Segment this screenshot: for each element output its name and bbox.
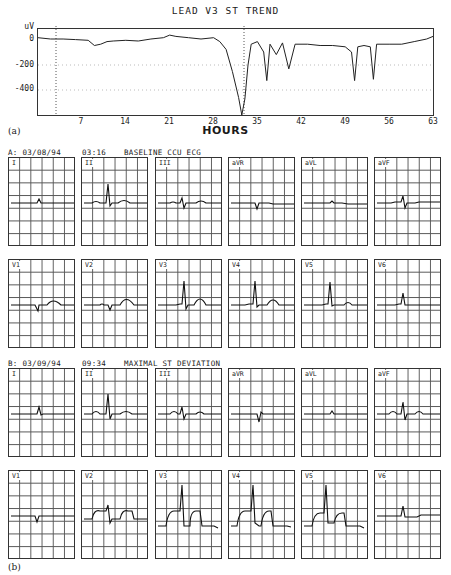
ecg-lead-box-b-v4: V4 [228, 470, 295, 559]
lead-label: V5 [304, 261, 314, 269]
ecg-lead-box-a-iii: III [155, 157, 222, 246]
lead-label: V2 [84, 261, 94, 269]
ecg-waveform [9, 260, 76, 349]
ecg-lead-box-a-v2: V2 [81, 259, 148, 348]
ecg-lead-box-a-i: I [8, 157, 75, 246]
lead-label: V6 [377, 472, 387, 480]
lead-label: aVF [377, 370, 391, 378]
ecg-lead-box-b-v2: V2 [81, 470, 148, 559]
lead-label: V5 [304, 472, 314, 480]
panel-label-a: (a) [8, 126, 20, 136]
ecg-waveform [156, 471, 223, 560]
ecg-waveform [82, 158, 149, 247]
ecg-lead-box-b-avr: aVR [228, 368, 295, 457]
ecg-lead-box-a-v5: V5 [301, 259, 368, 348]
lead-label: aVL [304, 370, 318, 378]
lead-label: aVR [231, 159, 245, 167]
ecg-waveform [156, 260, 223, 349]
ecg-waveform [9, 158, 76, 247]
ecg-waveform [229, 158, 296, 247]
ecg-waveform [82, 369, 149, 458]
lead-label: III [158, 370, 172, 378]
ecg-lead-box-b-ii: II [81, 368, 148, 457]
ecg-lead-box-a-v4: V4 [228, 259, 295, 348]
section-a-date: A: 03/08/94 [8, 148, 61, 157]
section-b-date: B: 03/09/94 [8, 359, 61, 368]
section-a-time: 03:16 [82, 148, 106, 157]
ecg-lead-box-a-avr: aVR [228, 157, 295, 246]
ecg-lead-box-b-v3: V3 [155, 470, 222, 559]
panel-label-b: (b) [8, 562, 21, 572]
ecg-waveform [375, 158, 442, 247]
ecg-waveform [9, 369, 76, 458]
ecg-lead-box-a-avf: aVF [374, 157, 441, 246]
lead-label: V3 [158, 472, 168, 480]
lead-label: V6 [377, 261, 387, 269]
ecg-waveform [9, 471, 76, 560]
x-axis-label: HOURS [0, 124, 451, 137]
ecg-waveform [302, 260, 369, 349]
lead-label: I [11, 159, 17, 167]
lead-label: aVF [377, 159, 391, 167]
lead-label: I [11, 370, 17, 378]
lead-label: V2 [84, 472, 94, 480]
lead-label: V4 [231, 261, 241, 269]
ecg-lead-box-b-iii: III [155, 368, 222, 457]
ecg-waveform [302, 369, 369, 458]
ecg-lead-box-a-v1: V1 [8, 259, 75, 348]
ecg-waveform [375, 369, 442, 458]
ecg-waveform [229, 369, 296, 458]
ecg-waveform [375, 260, 442, 349]
lead-label: V1 [11, 472, 21, 480]
section-a-description: BASELINE CCU ECG [124, 148, 201, 157]
ecg-waveform [229, 471, 296, 560]
ecg-waveform [302, 471, 369, 560]
lead-label: aVL [304, 159, 318, 167]
ecg-waveform [82, 260, 149, 349]
ecg-lead-box-b-i: I [8, 368, 75, 457]
ecg-waveform [302, 158, 369, 247]
section-b-time: 09:34 [82, 359, 106, 368]
ecg-lead-box-b-v6: V6 [374, 470, 441, 559]
lead-label: V1 [11, 261, 21, 269]
lead-label: V4 [231, 472, 241, 480]
ecg-lead-box-b-avf: aVF [374, 368, 441, 457]
lead-label: II [84, 370, 94, 378]
ecg-lead-box-a-ii: II [81, 157, 148, 246]
ecg-lead-box-b-v5: V5 [301, 470, 368, 559]
ecg-waveform [229, 260, 296, 349]
lead-label: III [158, 159, 172, 167]
ecg-lead-box-b-v1: V1 [8, 470, 75, 559]
ecg-lead-box-a-avl: aVL [301, 157, 368, 246]
ecg-waveform [156, 369, 223, 458]
ecg-lead-box-a-v6: V6 [374, 259, 441, 348]
lead-label: aVR [231, 370, 245, 378]
lead-label: V3 [158, 261, 168, 269]
ecg-waveform [82, 471, 149, 560]
ecg-lead-box-b-avl: aVL [301, 368, 368, 457]
ecg-waveform [375, 471, 442, 560]
ecg-waveform [156, 158, 223, 247]
ecg-lead-box-a-v3: V3 [155, 259, 222, 348]
lead-label: II [84, 159, 94, 167]
section-b-description: MAXIMAL ST DEVIATION [124, 359, 220, 368]
